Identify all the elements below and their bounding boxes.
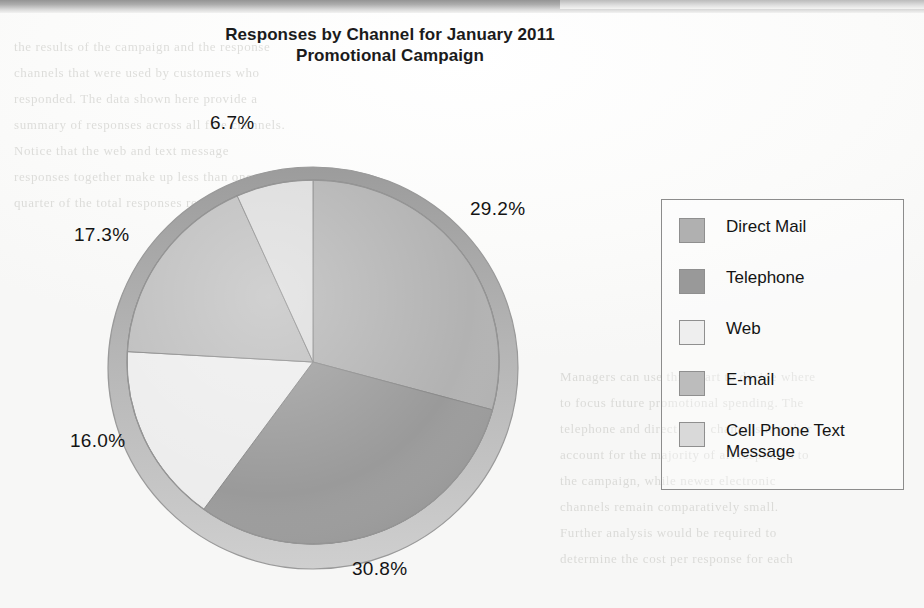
bleed-text-line: responded. The data shown here provide a bbox=[14, 86, 258, 111]
chart-title-line-2: Promotional Campaign bbox=[110, 45, 670, 66]
pie-chart bbox=[95, 148, 535, 578]
legend-item-list: Direct MailTelephoneWebE-mailCell Phone … bbox=[662, 200, 903, 489]
legend-item-label: Telephone bbox=[726, 267, 804, 288]
pie-label-telephone: 30.8% bbox=[352, 558, 407, 580]
bleed-text-line: Further analysis would be required to bbox=[560, 520, 777, 545]
pie-label-cell-phone-text: 6.7% bbox=[210, 112, 255, 134]
legend-item: Web bbox=[662, 318, 903, 369]
legend-swatch bbox=[679, 320, 705, 345]
legend-item-label: E-mail bbox=[726, 369, 774, 390]
legend-item: Direct Mail bbox=[662, 216, 903, 267]
legend-swatch bbox=[679, 371, 705, 396]
pie-shading-overlay bbox=[127, 180, 499, 544]
legend-item: Telephone bbox=[662, 267, 903, 318]
pie-label-direct-mail: 29.2% bbox=[470, 198, 525, 220]
legend-item-label: Direct Mail bbox=[726, 216, 806, 237]
legend-swatch bbox=[679, 269, 705, 294]
chart-title-line-1: Responses by Channel for January 2011 bbox=[110, 24, 670, 45]
scan-edge-band-right bbox=[560, 0, 924, 9]
chart-legend: Direct MailTelephoneWebE-mailCell Phone … bbox=[661, 199, 904, 490]
bleed-text-line: channels remain comparatively small. bbox=[560, 494, 779, 519]
legend-item: Cell Phone Text Message bbox=[662, 420, 903, 471]
pie-label-email: 17.3% bbox=[74, 224, 129, 246]
bleed-text-line: determine the cost per response for each bbox=[560, 546, 793, 571]
scanned-page: the results of the campaign and the resp… bbox=[0, 0, 924, 608]
legend-item-label: Cell Phone Text Message bbox=[726, 420, 898, 462]
legend-swatch bbox=[679, 218, 705, 243]
legend-item: E-mail bbox=[662, 369, 903, 420]
legend-item-label: Web bbox=[726, 318, 761, 339]
pie-label-web: 16.0% bbox=[70, 430, 125, 452]
pie-chart-svg bbox=[95, 148, 535, 578]
legend-swatch bbox=[679, 422, 705, 447]
chart-title: Responses by Channel for January 2011 Pr… bbox=[110, 24, 670, 66]
